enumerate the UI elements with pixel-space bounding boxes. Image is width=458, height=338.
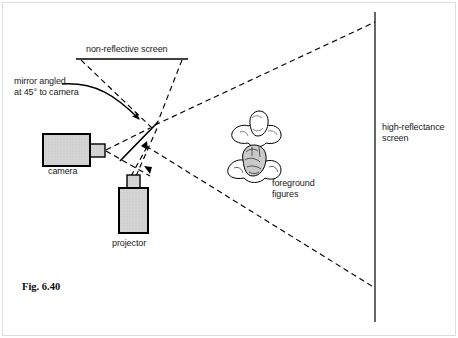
ray-arrowheads: [141, 141, 152, 174]
projector-lens: [127, 175, 140, 189]
mirror-line: [120, 122, 158, 161]
label-camera: camera: [48, 166, 77, 177]
ray-screen-left: [81, 60, 152, 128]
ray-camera-lower: [106, 151, 150, 176]
projector-body: [119, 188, 148, 233]
label-high-reflectance-screen: high-reflectance screen: [382, 122, 444, 143]
camera-lens: [89, 144, 105, 157]
label-projector: projector: [112, 238, 146, 249]
label-mirror-angled: mirror angled at 45° to camera: [14, 76, 79, 97]
figure-caption: Fig. 6.40: [22, 281, 60, 292]
label-foreground-figures: foreground figures: [272, 178, 315, 199]
camera-body: [43, 134, 90, 166]
camera-graphic: [43, 134, 105, 166]
projector-graphic: [119, 175, 148, 233]
ray-screen-right: [157, 60, 182, 124]
figure-upper-head: [250, 111, 268, 136]
foreground-figure-upper: [232, 111, 281, 147]
figure-canvas: non-reflective screen mirror angled at 4…: [0, 0, 458, 338]
label-non-reflective-screen: non-reflective screen: [86, 44, 167, 55]
ray-projector-left: [131, 147, 147, 176]
ray-beam-upper: [155, 22, 375, 125]
foreground-figure-lower: [228, 145, 281, 183]
